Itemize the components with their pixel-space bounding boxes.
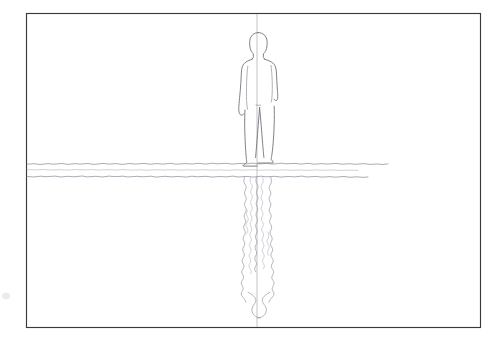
picture-border (27, 14, 481, 328)
reflection-ripple-accent-right (267, 232, 269, 255)
drawing-surface (0, 0, 501, 348)
water-reflection (241, 177, 274, 318)
standing-figure (239, 33, 278, 167)
horizon-waterline (27, 163, 388, 177)
figure-right-arm-inner (271, 65, 272, 102)
figure-left-side-outline (239, 59, 253, 115)
reflection-head-outline (248, 292, 270, 318)
reflection-right-outer-strand (269, 177, 274, 302)
waterline-lower (27, 176, 368, 177)
reflection-ripple-accent-left (246, 210, 248, 233)
reflection-centre-strand (255, 177, 258, 272)
reflection-left-outer-strand (241, 177, 246, 302)
reflection-right-inner-strand (261, 177, 264, 269)
reflection-left-inner-strand (249, 177, 252, 274)
waterline-middle (27, 170, 358, 171)
artwork-canvas: Standing Figure at Waterline with Reflec… (0, 0, 501, 348)
figure-left-leg-outline (243, 110, 257, 166)
figure-left-arm-inner (246, 66, 247, 109)
paper-smudge-left-icon (2, 293, 10, 299)
waterline-upper (27, 163, 388, 164)
figure-head-outline (250, 33, 267, 60)
